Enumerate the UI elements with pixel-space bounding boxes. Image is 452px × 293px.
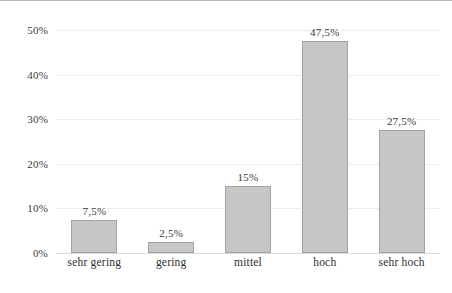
y-tick-label: 50% xyxy=(0,24,48,36)
bar-slot: 2,5% xyxy=(148,30,194,253)
y-tick-label: 20% xyxy=(0,158,48,170)
x-axis-label: mittel xyxy=(234,256,262,268)
plot-area: 7,5%2,5%15%47,5%27,5% xyxy=(56,30,440,253)
bar[interactable] xyxy=(71,220,117,253)
bar-slot: 7,5% xyxy=(71,30,117,253)
gridline-0pct xyxy=(56,253,440,254)
x-axis-label: sehr hoch xyxy=(378,256,424,268)
x-axis-category-labels: sehr geringgeringmittelhochsehr hoch xyxy=(56,256,440,278)
x-axis-label: sehr gering xyxy=(68,256,122,268)
bar[interactable] xyxy=(148,242,194,253)
bar-value-label: 15% xyxy=(238,171,259,183)
bar-series: 7,5%2,5%15%47,5%27,5% xyxy=(56,30,440,253)
bar-slot: 15% xyxy=(225,30,271,253)
bar-value-label: 7,5% xyxy=(83,205,107,217)
x-axis-label: hoch xyxy=(313,256,336,268)
y-tick-label: 40% xyxy=(0,69,48,81)
y-tick-label: 30% xyxy=(0,113,48,125)
bar[interactable] xyxy=(302,41,348,253)
x-axis-label: gering xyxy=(156,256,187,268)
y-tick-label: 10% xyxy=(0,202,48,214)
bar-slot: 47,5% xyxy=(302,30,348,253)
bar-chart: 0%10%20%30%40%50% 7,5%2,5%15%47,5%27,5% … xyxy=(0,1,452,293)
bar-value-label: 27,5% xyxy=(387,115,416,127)
bar-slot: 27,5% xyxy=(379,30,425,253)
bar-value-label: 2,5% xyxy=(159,227,183,239)
bar[interactable] xyxy=(225,186,271,253)
bar[interactable] xyxy=(379,130,425,253)
bar-value-label: 47,5% xyxy=(310,26,339,38)
y-tick-label: 0% xyxy=(0,247,48,259)
chart-screenshot: 0%10%20%30%40%50% 7,5%2,5%15%47,5%27,5% … xyxy=(0,0,452,293)
